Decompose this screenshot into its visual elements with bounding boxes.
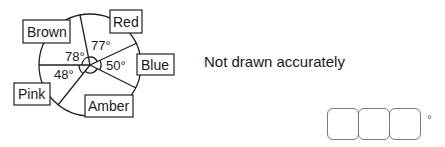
not-drawn-accurately-note: Not drawn accurately xyxy=(204,53,345,70)
degree-unit: ° xyxy=(427,113,432,127)
angle-label-brown: 78° xyxy=(65,49,85,64)
label-brown: Brown xyxy=(27,24,67,40)
answer-input-group xyxy=(327,108,420,140)
angle-arc-pink xyxy=(79,65,83,74)
label-red: Red xyxy=(113,14,139,30)
angle-label-pink: 48° xyxy=(54,67,74,82)
angle-arc-blue xyxy=(100,60,101,70)
answer-digit-box-1[interactable] xyxy=(327,108,359,140)
label-amber: Amber xyxy=(88,98,130,114)
answer-digit-box-2[interactable] xyxy=(358,108,390,140)
answer-digit-box-3[interactable] xyxy=(389,108,421,140)
angle-label-red: 77° xyxy=(91,38,111,53)
label-blue: Blue xyxy=(141,57,169,73)
label-pink: Pink xyxy=(18,86,46,102)
pie-chart: 77° 78° 50° 48° Brown Red Blue Pink Ambe… xyxy=(0,0,200,147)
angle-label-blue: 50° xyxy=(106,58,126,73)
